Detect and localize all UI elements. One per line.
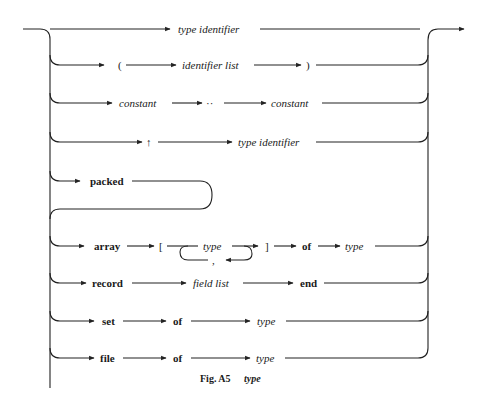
row3-branch-in: [50, 93, 112, 103]
row6-branch-in: [50, 236, 84, 246]
row8-set: set: [102, 315, 115, 327]
row2-identifier-list: identifier list: [182, 59, 239, 71]
row8-branch-out: [286, 311, 428, 321]
row2-open-paren: (: [118, 59, 122, 72]
row9-of: of: [173, 352, 183, 364]
row3-dots: ··: [206, 97, 213, 109]
row6-close-bracket: ]: [265, 240, 269, 252]
row7-end: end: [300, 277, 317, 289]
row6-comma-loop: [226, 246, 252, 260]
row3-constant-a: constant: [119, 97, 157, 109]
row3-branch-out: [322, 93, 428, 103]
row5-branch-in: [50, 171, 80, 181]
row2-branch-in: [50, 55, 104, 65]
right-merge-rail: [428, 29, 464, 348]
row7-record: record: [92, 277, 123, 289]
row9-file: file: [100, 352, 115, 364]
figure-title: type: [244, 373, 261, 384]
row4-branch-in: [50, 132, 142, 142]
row4-pointer-arrow: ↑: [146, 136, 152, 148]
row6-array: array: [94, 240, 121, 252]
row3-constant-b: constant: [271, 97, 309, 109]
row8-of: of: [173, 315, 183, 327]
row7-branch-in: [50, 273, 86, 283]
row4-branch-out: [316, 132, 428, 142]
row7-branch-out: [324, 273, 428, 283]
row6-comma: ,: [212, 254, 215, 266]
row6-branch-out: [375, 236, 428, 246]
figure-label: Fig. A5: [200, 373, 231, 384]
entry-line: [23, 29, 50, 388]
row9-branch-in: [50, 348, 94, 358]
row2-branch-out: [316, 55, 428, 65]
row5-packed: packed: [90, 175, 124, 187]
row6-element-type: type: [345, 240, 363, 252]
row8-type: type: [257, 315, 275, 327]
row4-type-identifier: type identifier: [238, 136, 300, 148]
row9-type: type: [256, 352, 274, 364]
row5-packed-loop: [50, 181, 212, 219]
row8-branch-in: [50, 311, 94, 321]
syntax-diagram: type identifier ( identifier list ) cons…: [0, 0, 478, 403]
row7-field-list: field list: [193, 277, 230, 289]
row6-of: of: [302, 240, 312, 252]
row9-branch-out: [285, 348, 428, 358]
row6-index-type: type: [203, 240, 221, 252]
row6-open-bracket: [: [159, 240, 163, 252]
row2-close-paren: ): [306, 59, 310, 72]
row1-type-identifier: type identifier: [178, 23, 240, 35]
